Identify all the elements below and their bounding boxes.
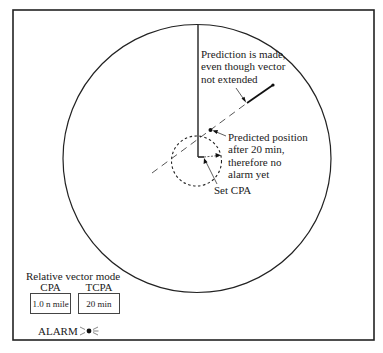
alarm-label: ALARM <box>38 325 78 337</box>
prediction-note-line-2: even though vector <box>201 60 286 72</box>
predicted-note-line-3: therefore no <box>228 156 308 168</box>
cpa-label: CPA <box>30 281 71 293</box>
predicted-position-note: Predicted position after 20 min, therefo… <box>228 131 308 180</box>
prediction-note-line-3: not extended <box>201 73 286 85</box>
set-cpa-leader <box>205 160 217 184</box>
predicted-position-dot <box>209 128 213 132</box>
set-cpa-label: Set CPA <box>214 184 251 196</box>
prediction-note-line-1: Prediction is made, <box>201 48 286 60</box>
predicted-note-line-2: after 20 min, <box>228 143 308 155</box>
prediction-note: Prediction is made, even though vector n… <box>201 48 286 85</box>
predicted-note-line-4: alarm yet <box>228 168 308 180</box>
prediction-arrowhead <box>242 97 247 103</box>
target-vector <box>247 85 273 103</box>
cpa-radius-arrowhead <box>216 153 222 158</box>
tcpa-label: TCPA <box>78 281 120 293</box>
predicted-note-line-1: Predicted position <box>228 131 308 143</box>
blinking-light-icon <box>80 327 99 335</box>
tcpa-value-box: 20 min <box>78 293 120 314</box>
cpa-value-box: 1.0 n mile <box>30 293 71 314</box>
predicted-position-arrowhead <box>213 130 219 134</box>
